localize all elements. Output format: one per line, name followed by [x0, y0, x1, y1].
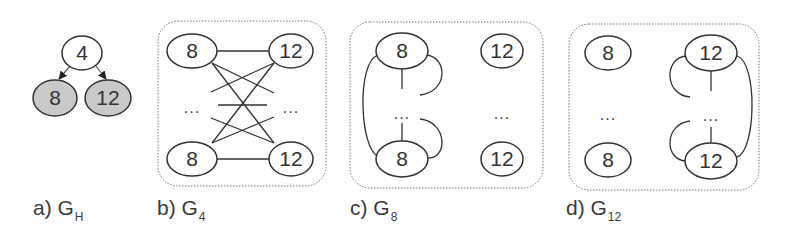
graph-figure: 4 8 12 a) GH 8 [0, 0, 791, 235]
node-12-bottom: 12 [685, 143, 737, 179]
node-12-bottom: 12 [481, 142, 523, 176]
svg-text:12: 12 [490, 147, 513, 170]
bipartite-edges [211, 51, 274, 159]
svg-text:12: 12 [279, 39, 302, 62]
panel-b: 8 12 8 12 ... ... b) G4 [157, 21, 326, 224]
ellipsis-left: ... [600, 106, 616, 123]
edge-4-to-12 [96, 66, 106, 79]
svg-text:8: 8 [602, 148, 614, 171]
svg-text:8: 8 [396, 147, 408, 170]
node-12-top: 12 [269, 34, 313, 68]
node-8-top: 8 [376, 33, 428, 69]
svg-text:8: 8 [49, 86, 61, 109]
node-8-bottom: 8 [167, 142, 217, 176]
svg-text:12: 12 [279, 147, 302, 170]
panel-a: 4 8 12 a) GH [33, 36, 131, 224]
ellipsis-right: ... [494, 105, 510, 122]
caption-d: d) G12 [566, 196, 622, 224]
node-8-top: 8 [585, 36, 631, 70]
caption-b: b) G4 [157, 196, 206, 224]
node-8-bottom: 8 [376, 141, 428, 177]
svg-text:12: 12 [699, 149, 722, 172]
svg-text:12: 12 [96, 86, 119, 109]
edge-4-to-8 [59, 66, 70, 79]
caption-c: c) G8 [350, 196, 398, 224]
node-4: 4 [62, 36, 102, 70]
ellipsis-right: ... [283, 99, 299, 116]
node-12-top: 12 [481, 34, 523, 68]
panel-c: 8 12 8 12 ... ... c) G8 [350, 22, 543, 224]
ellipsis-right: ... [703, 107, 719, 124]
caption-a: a) GH [33, 196, 84, 224]
svg-text:8: 8 [186, 147, 198, 170]
svg-text:8: 8 [396, 39, 408, 62]
svg-text:4: 4 [76, 41, 88, 64]
node-8-top: 8 [167, 34, 217, 68]
node-12-top: 12 [685, 35, 737, 71]
node-12-leaf: 12 [85, 80, 131, 116]
node-8-leaf: 8 [33, 80, 77, 116]
panel-d: 8 12 8 12 ... ... d) G12 [566, 24, 759, 224]
svg-text:8: 8 [186, 39, 198, 62]
ellipsis-left: ... [184, 99, 200, 116]
node-8-bottom: 8 [585, 143, 631, 177]
svg-text:12: 12 [490, 39, 513, 62]
node-12-bottom: 12 [269, 142, 313, 176]
svg-text:8: 8 [602, 41, 614, 64]
ellipsis-left: ... [394, 105, 410, 122]
svg-text:12: 12 [699, 41, 722, 64]
